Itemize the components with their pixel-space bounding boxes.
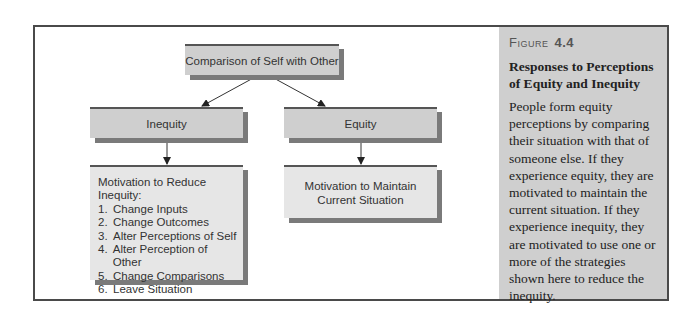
equity-node: Equity	[284, 107, 437, 138]
maintain-line-1: Motivation to Maintain	[305, 179, 417, 193]
comparison-node: Comparison of Self with Other	[185, 44, 339, 75]
inequity-node: Inequity	[90, 107, 243, 138]
strategy-item: 2. Change Outcomes	[98, 216, 237, 229]
reduce-inequity-node: Motivation to Reduce Inequity: 1. Change…	[90, 165, 243, 280]
arrow-to-equity	[270, 76, 325, 106]
equity-label: Equity	[345, 118, 377, 130]
strategy-item: 3. Alter Perceptions of Self	[98, 230, 237, 243]
strategy-item: 1. Change Inputs	[98, 203, 237, 216]
comparison-label: Comparison of Self with Other	[185, 55, 338, 67]
maintain-line-2: Current Situation	[317, 193, 403, 207]
strategy-item: 4. Alter Perception of Other	[98, 243, 237, 270]
strategy-item: 6. Leave Situation	[98, 283, 237, 296]
arrow-to-inequity	[202, 76, 257, 106]
strategy-item: 5. Change Comparisons	[98, 270, 237, 283]
maintain-situation-node: Motivation to Maintain Current Situation	[284, 165, 437, 218]
reduce-inequity-heading: Motivation to Reduce Inequity:	[98, 176, 237, 203]
inequity-label: Inequity	[146, 118, 186, 130]
